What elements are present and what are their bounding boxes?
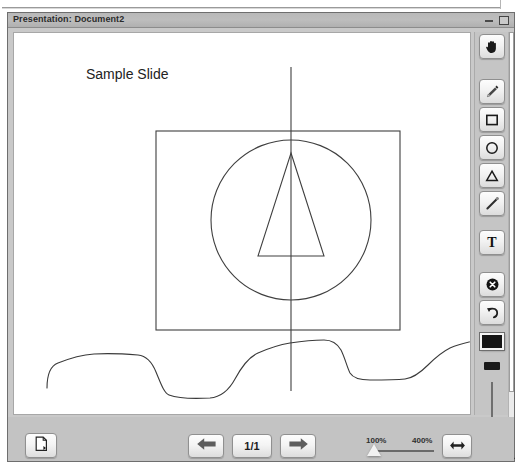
export-slide-button[interactable] <box>25 433 57 458</box>
presentation-window: Presentation: Document2 Sample Slide <box>7 12 515 462</box>
text-icon: T <box>487 236 496 250</box>
minimize-icon <box>485 20 493 22</box>
tool-palette: T <box>474 32 508 415</box>
slide-drawing[interactable]: Sample Slide <box>14 33 470 414</box>
minimize-button[interactable] <box>485 16 493 23</box>
maximize-button[interactable] <box>499 16 509 25</box>
fit-width-button[interactable] <box>442 434 472 458</box>
circle-icon <box>485 141 499 155</box>
vertical-scrollbar[interactable] <box>508 32 514 460</box>
page-indicator[interactable]: 1/1 <box>232 434 272 458</box>
shape-rectangle[interactable] <box>156 131 400 330</box>
undo-arrow-icon <box>485 305 500 320</box>
window-title: Presentation: Document2 <box>13 14 124 24</box>
scrollbar-thumb[interactable] <box>509 32 514 392</box>
slide-canvas[interactable]: Sample Slide <box>13 32 471 415</box>
slide-title-text: Sample Slide <box>86 66 169 82</box>
zoom-slider[interactable]: 100% 400% <box>366 437 436 461</box>
stroke-width-preview[interactable] <box>484 362 500 370</box>
tool-delete[interactable] <box>479 272 505 297</box>
tool-rectangle[interactable] <box>479 107 505 132</box>
clipped-top-line-shadow <box>2 8 500 9</box>
tool-undo[interactable] <box>479 300 505 325</box>
document-export-icon <box>34 436 49 456</box>
arrow-left-icon <box>196 437 217 455</box>
title-bar[interactable]: Presentation: Document2 <box>8 13 514 28</box>
triangle-icon <box>485 169 499 183</box>
prev-slide-button[interactable] <box>188 434 224 458</box>
tool-ellipse[interactable] <box>479 135 505 160</box>
arrow-right-icon <box>288 437 309 455</box>
pencil-icon <box>485 84 500 99</box>
tool-triangle[interactable] <box>479 163 505 188</box>
fit-width-icon <box>449 437 466 455</box>
clipped-top-element <box>0 0 523 10</box>
clipped-top-nub <box>500 0 501 9</box>
tool-hand[interactable] <box>479 34 505 59</box>
close-circle-icon <box>485 277 500 292</box>
bottom-toolbar: 1/1 100% 400% <box>8 417 514 461</box>
tool-pencil[interactable] <box>479 79 505 104</box>
zoom-slider-track <box>372 450 434 452</box>
shape-freehand-curve[interactable] <box>47 339 470 398</box>
tool-text[interactable]: T <box>479 230 505 255</box>
rectangle-icon <box>485 113 499 127</box>
tool-line[interactable] <box>479 191 505 216</box>
zoom-slider-thumb[interactable] <box>367 444 381 456</box>
next-slide-button[interactable] <box>280 434 316 458</box>
line-icon <box>485 196 500 211</box>
stroke-color-swatch[interactable] <box>480 333 504 350</box>
hand-icon <box>485 39 499 54</box>
zoom-max-label: 400% <box>412 436 432 445</box>
